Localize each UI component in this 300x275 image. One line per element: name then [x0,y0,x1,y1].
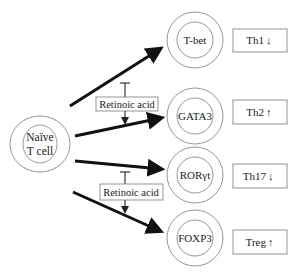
outcome-th17: Th17 ↓ [233,164,287,188]
down-arrow-icon: ↓ [268,170,274,182]
tf-node-tbet: T-bet [167,12,223,68]
down-arrow-icon: ↓ [266,34,272,46]
tf-node-gata3: GATA3 [167,88,223,144]
tf-node-foxp3: FOXP3 [167,210,223,266]
naive-t-cell-label-line2: T cell [27,145,53,157]
up-arrow-icon: ↑ [268,236,274,248]
retinoic-acid-regulator-1: Retinoic acid [96,83,158,123]
tbet-label: T-bet [184,34,207,46]
outcome-th1: Th1 ↓ [233,29,287,52]
rorgt-label: RORγt [180,169,211,181]
tf-node-rorgt: RORγt [167,147,223,203]
naive-t-cell-outer-ring [10,116,70,172]
retinoic-acid-regulator-2: Retinoic acid [100,172,163,212]
gata3-label: GATA3 [178,110,212,122]
up-arrow-icon: ↑ [266,106,272,118]
th1-label: Th1 [246,34,264,46]
treg-label: Treg [246,236,267,248]
outcome-th2: Th2 ↑ [233,100,287,124]
arrow-to-rorgt [75,161,161,169]
t-cell-differentiation-diagram: Naïve T cell Retinoic acid Retinoic acid… [0,0,300,275]
retinoic-acid-label-2: Retinoic acid [103,187,159,198]
naive-t-cell-node: Naïve T cell [10,116,70,172]
naive-t-cell-label-line1: Naïve [26,131,53,143]
arrow-to-gata3 [75,118,161,136]
retinoic-acid-label-1: Retinoic acid [99,99,155,110]
th2-label: Th2 [246,106,264,118]
outcome-treg: Treg ↑ [233,230,287,254]
th17-label: Th17 [243,170,267,182]
foxp3-label: FOXP3 [178,232,212,244]
